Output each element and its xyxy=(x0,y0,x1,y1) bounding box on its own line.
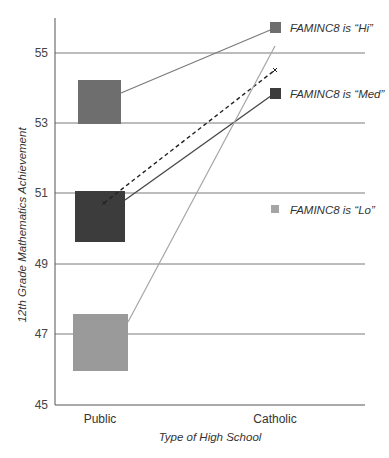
catholic-marker-med xyxy=(270,88,281,99)
x-tick-public: Public xyxy=(84,412,117,426)
line-hi xyxy=(121,28,275,93)
y-tick-55: 55 xyxy=(35,46,49,60)
y-tick-53: 53 xyxy=(35,116,49,130)
y-tick-51: 51 xyxy=(35,186,49,200)
public-box-hi xyxy=(78,80,121,124)
public-box-med xyxy=(75,191,125,242)
line-lo xyxy=(128,46,275,322)
x-axis-title: Type of High School xyxy=(159,431,262,443)
x-marker-catholic xyxy=(273,68,277,72)
line-med xyxy=(125,93,275,200)
legend-label-hi: FAMINC8 is “Hi” xyxy=(290,22,374,34)
y-axis-title: 12th Grade Mathematics Achievement xyxy=(16,127,28,323)
catholic-marker-lo xyxy=(271,205,279,213)
legend-label-med: FAMINC8 is “Med” xyxy=(290,88,386,100)
y-tick-49: 49 xyxy=(35,257,49,271)
x-tick-catholic: Catholic xyxy=(253,412,296,426)
public-box-lo xyxy=(73,314,128,371)
cut-off-caption xyxy=(8,446,383,454)
y-tick-47: 47 xyxy=(35,327,49,341)
legend-label-lo: FAMINC8 is “Lo” xyxy=(290,204,376,216)
chart: 55 53 51 49 47 45 12th Grade Mathematics… xyxy=(0,0,389,458)
y-tick-45: 45 xyxy=(35,398,49,412)
catholic-marker-hi xyxy=(270,22,281,33)
y-tick-labels: 55 53 51 49 47 45 xyxy=(35,46,49,412)
